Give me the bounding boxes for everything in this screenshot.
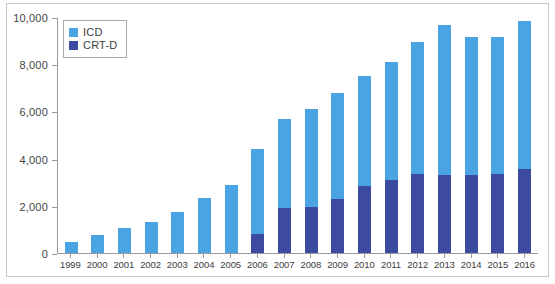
bar-column xyxy=(458,18,484,253)
legend-swatch-crtd xyxy=(69,41,78,50)
x-axis-tick-label: 2004 xyxy=(191,260,217,270)
x-axis-tick-label: 2014 xyxy=(458,260,484,270)
bar-column xyxy=(245,18,271,253)
x-axis-tick-label: 2016 xyxy=(512,260,538,270)
bar-column xyxy=(378,18,404,253)
bar-column xyxy=(218,18,244,253)
tick-line xyxy=(257,254,258,258)
tick-line xyxy=(524,254,525,258)
bar-segment-crtd xyxy=(518,169,531,253)
stacked-bar xyxy=(198,198,211,253)
bar-segment-crtd xyxy=(491,174,504,253)
bar-column xyxy=(432,18,458,253)
x-axis-tick-label: 2005 xyxy=(218,260,244,270)
tick-line xyxy=(444,254,445,258)
bar-segment-icd xyxy=(145,222,158,253)
stacked-bar xyxy=(518,21,531,253)
bar-segment-crtd xyxy=(358,186,371,253)
bar-segment-crtd xyxy=(438,175,451,253)
x-axis-tick-label: 2011 xyxy=(378,260,404,270)
bar-segment-icd xyxy=(278,119,291,209)
stacked-bar xyxy=(145,222,158,253)
bar-segment-icd xyxy=(358,76,371,186)
bar-segment-crtd xyxy=(305,207,318,253)
tick-line xyxy=(390,254,391,258)
bar-segment-icd xyxy=(438,25,451,175)
legend-swatch-icd xyxy=(69,28,78,37)
bar-segment-icd xyxy=(491,37,504,174)
stacked-bar xyxy=(65,242,78,253)
bar-segment-crtd xyxy=(465,175,478,253)
bar-column xyxy=(325,18,351,253)
stacked-bar xyxy=(465,37,478,253)
tick-line xyxy=(123,254,124,258)
tick-line xyxy=(230,254,231,258)
bar-series-group xyxy=(58,18,538,253)
bar-column xyxy=(511,18,537,253)
tick-line xyxy=(364,254,365,258)
stacked-bar xyxy=(251,149,264,253)
stacked-bar xyxy=(491,37,504,253)
bar-segment-crtd xyxy=(411,174,424,253)
x-axis-tick-label: 2002 xyxy=(138,260,164,270)
bar-column xyxy=(298,18,324,253)
tick-line xyxy=(310,254,311,258)
bar-column xyxy=(272,18,298,253)
stacked-bar xyxy=(118,228,131,253)
x-axis-tick-label: 1999 xyxy=(57,260,83,270)
x-axis-tick-label: 2015 xyxy=(485,260,511,270)
bar-column xyxy=(165,18,191,253)
tick-line xyxy=(150,254,151,258)
x-axis-tick-label: 2010 xyxy=(351,260,377,270)
bar-segment-crtd xyxy=(251,234,264,253)
tick-line xyxy=(471,254,472,258)
x-axis-tick-label: 2009 xyxy=(325,260,351,270)
stacked-bar xyxy=(278,119,291,254)
x-axis-tick-label: 2003 xyxy=(164,260,190,270)
x-axis-tick-label: 2008 xyxy=(298,260,324,270)
bar-segment-icd xyxy=(171,212,184,253)
bar-column xyxy=(138,18,164,253)
bar-column xyxy=(192,18,218,253)
chart-figure: 02,0004,0006,0008,00010,000 199920002001… xyxy=(0,0,555,284)
x-axis-tick-label: 2012 xyxy=(405,260,431,270)
bar-segment-icd xyxy=(225,185,238,253)
tick-line xyxy=(284,254,285,258)
stacked-bar xyxy=(171,212,184,253)
bar-segment-icd xyxy=(91,235,104,253)
bar-segment-crtd xyxy=(278,208,291,253)
tick-line xyxy=(97,254,98,258)
x-axis-tick-label: 2013 xyxy=(431,260,457,270)
stacked-bar xyxy=(411,42,424,253)
bar-segment-icd xyxy=(198,198,211,253)
stacked-bar xyxy=(225,185,238,253)
bar-segment-crtd xyxy=(331,199,344,253)
bar-column xyxy=(352,18,378,253)
x-axis-labels: 1999200020012002200320042005200620072008… xyxy=(57,260,538,270)
bar-segment-icd xyxy=(465,37,478,175)
bar-segment-icd xyxy=(411,42,424,174)
x-axis-tick-label: 2001 xyxy=(111,260,137,270)
chart-legend: ICD CRT-D xyxy=(63,20,127,58)
x-axis-tick-label: 2007 xyxy=(271,260,297,270)
x-axis-tick-label: 2006 xyxy=(244,260,270,270)
legend-label-icd: ICD xyxy=(83,27,103,38)
tick-line xyxy=(177,254,178,258)
bar-segment-icd xyxy=(65,242,78,253)
tick-line xyxy=(337,254,338,258)
stacked-bar xyxy=(91,235,104,253)
tick-line xyxy=(70,254,71,258)
bar-segment-icd xyxy=(331,93,344,199)
tick-line xyxy=(497,254,498,258)
stacked-bar xyxy=(305,109,318,253)
legend-item-icd: ICD xyxy=(69,27,117,38)
bar-segment-icd xyxy=(518,21,531,170)
bar-column xyxy=(405,18,431,253)
bar-segment-icd xyxy=(305,109,318,207)
tick-line xyxy=(417,254,418,258)
plot-area xyxy=(57,18,538,254)
stacked-bar xyxy=(385,62,398,253)
bar-column xyxy=(485,18,511,253)
x-axis-tick-label: 2000 xyxy=(84,260,110,270)
legend-label-crtd: CRT-D xyxy=(83,40,117,51)
